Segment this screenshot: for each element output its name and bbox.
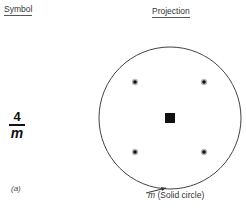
mirror-annotation: m (Solid circle) [148, 190, 204, 200]
pole-4 [201, 149, 207, 155]
mirror-label: m [148, 190, 155, 200]
mirror-description: (Solid circle) [157, 190, 204, 200]
pole-2 [201, 79, 207, 85]
fourfold-axis-square-icon [165, 113, 175, 123]
pole-1 [132, 79, 138, 85]
stereographic-projection [0, 0, 246, 222]
pole-3 [132, 149, 138, 155]
